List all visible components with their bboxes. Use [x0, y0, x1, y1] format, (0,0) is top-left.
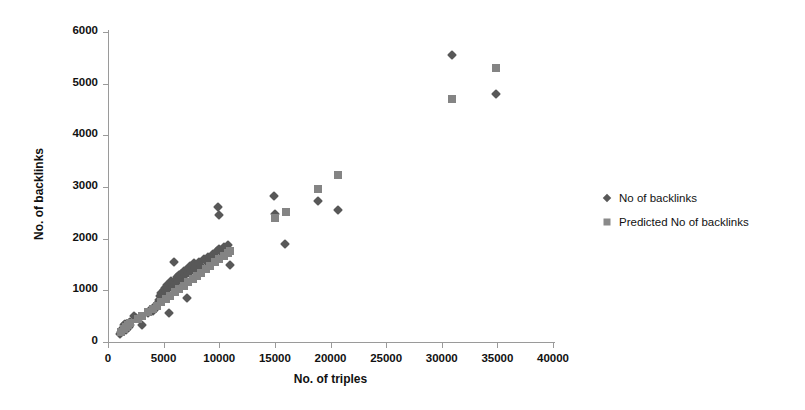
scatter-chart: 0100020003000400050006000 05000100001500… — [0, 0, 805, 410]
data-point — [447, 50, 457, 60]
data-point — [334, 171, 342, 179]
data-point — [282, 208, 290, 216]
chart-legend: No of backlinks Predicted No of backlink… — [600, 186, 800, 234]
x-axis-tick — [386, 343, 387, 348]
data-point — [225, 260, 235, 270]
legend-item-predicted-no-of-backlinks[interactable]: Predicted No of backlinks — [600, 210, 800, 234]
x-axis-tick — [553, 343, 554, 348]
legend-item-no-of-backlinks[interactable]: No of backlinks — [600, 186, 800, 210]
x-axis-tick — [331, 343, 332, 348]
data-point — [269, 191, 279, 201]
y-axis-tick-label: 0 — [38, 334, 98, 346]
x-axis-tick — [497, 343, 498, 348]
data-point — [226, 247, 234, 255]
data-point — [182, 293, 192, 303]
data-point — [164, 308, 174, 318]
square-marker-icon — [600, 215, 614, 229]
x-axis-tick-label: 40000 — [518, 352, 588, 364]
y-axis-tick-label: 2000 — [38, 231, 98, 243]
diamond-marker-icon — [600, 191, 614, 205]
data-point — [314, 185, 322, 193]
y-axis-tick-label: 6000 — [38, 24, 98, 36]
legend-item-label: Predicted No of backlinks — [619, 216, 749, 228]
data-point — [280, 239, 290, 249]
x-axis-tick — [442, 343, 443, 348]
x-axis-tick — [219, 343, 220, 348]
x-axis-tick — [164, 343, 165, 348]
data-point — [271, 214, 279, 222]
y-axis-tick-label: 1000 — [38, 282, 98, 294]
legend-item-label: No of backlinks — [619, 192, 697, 204]
y-axis-tick-label: 4000 — [38, 127, 98, 139]
data-point — [313, 196, 323, 206]
x-axis-tick — [275, 343, 276, 348]
x-axis-title: No. of triples — [0, 372, 661, 386]
data-point — [169, 257, 179, 267]
data-point — [491, 89, 501, 99]
y-axis-title: No. of backlinks — [32, 119, 46, 269]
data-point — [333, 205, 343, 215]
data-point — [448, 95, 456, 103]
data-point — [492, 64, 500, 72]
plot-area — [108, 32, 553, 342]
data-point — [214, 210, 224, 220]
y-axis-tick-label: 3000 — [38, 179, 98, 191]
y-axis-tick-label: 5000 — [38, 76, 98, 88]
x-axis-tick — [108, 343, 109, 348]
